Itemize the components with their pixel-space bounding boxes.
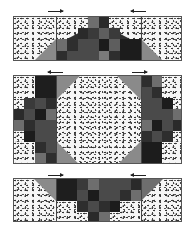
bottom-left-triangle (34, 179, 56, 201)
top-left-triangle (34, 39, 56, 61)
patch (67, 39, 78, 51)
seam-line (141, 179, 142, 222)
patch (46, 109, 56, 120)
patch (141, 142, 162, 164)
patch (14, 120, 24, 131)
patch (173, 120, 182, 131)
mid-left-print-bottom (14, 142, 35, 164)
patch (120, 190, 131, 201)
seam-line (56, 76, 57, 164)
patch (109, 28, 120, 39)
patch (56, 51, 67, 61)
patch (173, 109, 182, 120)
patch (88, 179, 99, 190)
seam-line (56, 17, 57, 61)
patch (99, 51, 109, 61)
mid-right-print-bottom (162, 142, 182, 164)
patch (24, 98, 35, 109)
patch (109, 51, 120, 61)
patch (162, 120, 173, 131)
patch (99, 179, 120, 201)
patch (131, 179, 141, 190)
arrow-right-icon (60, 9, 64, 13)
patch (56, 179, 77, 201)
bottom-center-print-low-left (77, 212, 88, 222)
bottom-center-print-low-right (110, 212, 120, 222)
seam-line (141, 76, 142, 164)
patch (78, 39, 99, 61)
patch (35, 120, 56, 142)
mid-right-print-3 (173, 131, 182, 142)
arrow-left-icon (47, 70, 51, 74)
patch (162, 98, 173, 109)
patch (131, 190, 141, 201)
patch (141, 87, 152, 98)
patch (24, 131, 35, 142)
patch (99, 201, 110, 212)
center-octagon (56, 76, 141, 164)
patch (141, 98, 162, 120)
patch (88, 201, 99, 212)
patch (99, 39, 109, 51)
seam-line (56, 179, 57, 222)
bottom-center-print-left (56, 201, 77, 222)
arrow-left-icon (130, 9, 134, 13)
patch (152, 120, 162, 131)
patch (77, 201, 88, 212)
patch (35, 153, 46, 164)
arrow-right-icon (60, 173, 64, 177)
patch (56, 39, 67, 51)
arrow-top-left (48, 9, 63, 14)
patch (35, 109, 46, 120)
patch (110, 201, 120, 212)
patch (88, 28, 99, 39)
patch (99, 17, 109, 28)
bottom-right-triangle (141, 179, 163, 201)
mid-left-print-2 (14, 98, 24, 109)
patch (120, 179, 131, 190)
patch (35, 76, 56, 98)
patch (99, 28, 109, 39)
patch (141, 76, 152, 87)
mid-right-print-top (162, 76, 182, 98)
patch (109, 39, 120, 51)
patch (67, 51, 78, 61)
top-right-triangle (141, 39, 163, 61)
arrow-right-icon (144, 70, 148, 74)
patch (24, 120, 35, 131)
patch (88, 17, 99, 28)
patch (78, 28, 88, 39)
seam-line (141, 17, 142, 61)
middle-row-panel (13, 75, 182, 164)
patch (141, 131, 152, 142)
patch (152, 131, 162, 142)
mid-left-print-top (14, 76, 35, 98)
bottom-row-panel (13, 178, 182, 222)
patch (46, 153, 56, 164)
patch (162, 131, 173, 142)
patch (14, 109, 24, 120)
patch (88, 212, 99, 222)
patch (77, 190, 88, 201)
bottom-center-print-right (120, 201, 141, 222)
patch (35, 142, 46, 153)
patch (162, 109, 173, 120)
mid-left-print-3 (14, 131, 24, 142)
arrow-top-right (131, 9, 146, 14)
patch (77, 179, 88, 190)
mid-right-print-2 (173, 98, 182, 109)
patch (88, 190, 99, 201)
patch (99, 212, 110, 222)
patch (46, 98, 56, 109)
patch (120, 39, 141, 61)
top-row-panel (13, 16, 182, 61)
patch (141, 120, 152, 131)
patch (46, 142, 56, 153)
patch (152, 87, 162, 98)
patch (35, 98, 46, 109)
patch (24, 109, 35, 120)
arrow-left-icon (130, 173, 134, 177)
patch (152, 76, 162, 87)
